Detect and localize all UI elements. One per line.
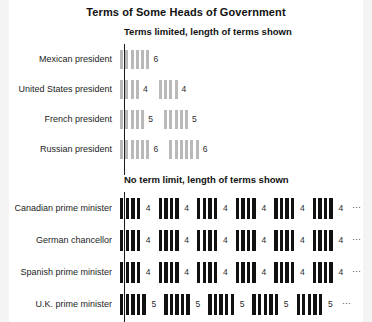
- year-bar: [136, 50, 139, 69]
- term-groups: 444444⋯: [120, 230, 362, 251]
- term-bars: [297, 294, 325, 315]
- year-bar: [291, 230, 294, 251]
- term-group: 5: [164, 294, 208, 315]
- row-label: Canadian prime minister: [0, 203, 118, 213]
- term-group: 4: [159, 80, 198, 99]
- year-bar: [141, 140, 144, 159]
- continuation-ellipsis: ⋯: [352, 203, 362, 213]
- term-bars: [313, 230, 335, 251]
- year-bar: [203, 262, 206, 283]
- chart-row: U.K. prime minister55555⋯: [0, 288, 372, 320]
- year-bar: [313, 198, 316, 219]
- term-group: 4: [159, 230, 198, 251]
- year-bar: [319, 294, 322, 315]
- term-group: 6: [120, 50, 169, 69]
- term-group: 4: [274, 198, 313, 219]
- term-bars: [197, 262, 219, 283]
- chart-row: Canadian prime minister444444⋯: [0, 192, 372, 224]
- year-bar: [308, 294, 311, 315]
- year-bar: [208, 294, 211, 315]
- term-bars: [120, 294, 148, 315]
- continuation-ellipsis: ⋯: [342, 299, 352, 309]
- term-length-label: 5: [196, 299, 201, 309]
- term-group: 4: [197, 198, 236, 219]
- year-bar: [120, 198, 123, 219]
- year-bar: [164, 262, 167, 283]
- year-bar: [125, 80, 128, 99]
- term-bars: [120, 230, 142, 251]
- term-length-label: 5: [328, 299, 333, 309]
- section-rows: Canadian prime minister444444⋯German cha…: [0, 192, 372, 320]
- term-length-label: 4: [261, 267, 266, 277]
- term-bars: [274, 230, 296, 251]
- year-bar: [264, 294, 267, 315]
- term-bars: [274, 262, 296, 283]
- year-bar: [285, 262, 288, 283]
- section-rows: Mexican president6United States presiden…: [0, 44, 372, 164]
- chart-row: Russian president66: [0, 134, 372, 164]
- term-bars: [120, 110, 144, 129]
- year-bar: [241, 262, 244, 283]
- year-bar: [164, 294, 167, 315]
- chart-title: Terms of Some Heads of Government: [0, 6, 372, 18]
- year-bar: [236, 230, 239, 251]
- year-bar: [131, 294, 134, 315]
- year-bar: [203, 230, 206, 251]
- row-label: German chancellor: [0, 235, 118, 245]
- year-bar: [131, 140, 134, 159]
- term-length-label: 4: [146, 267, 151, 277]
- year-bar: [329, 230, 332, 251]
- term-length-label: 6: [203, 144, 208, 154]
- year-bar: [175, 262, 178, 283]
- term-bars: [208, 294, 236, 315]
- year-bar: [142, 294, 145, 315]
- row-label: Spanish prime minister: [0, 267, 118, 277]
- chart-figure: Terms of Some Heads of Government Terms …: [0, 0, 372, 322]
- term-bars: [164, 294, 192, 315]
- year-bar: [208, 198, 211, 219]
- year-bar: [126, 198, 129, 219]
- continuation-ellipsis: ⋯: [352, 267, 362, 277]
- year-bar: [274, 262, 277, 283]
- term-length-label: 4: [184, 203, 189, 213]
- term-group: 4: [120, 80, 159, 99]
- year-bar: [169, 140, 172, 159]
- year-bar: [137, 230, 140, 251]
- year-bar: [131, 230, 134, 251]
- year-bar: [318, 262, 321, 283]
- year-bar: [269, 294, 272, 315]
- term-group: 5: [208, 294, 252, 315]
- year-bar: [175, 80, 178, 99]
- year-bar: [291, 198, 294, 219]
- year-bar: [329, 198, 332, 219]
- term-length-label: 4: [143, 84, 148, 94]
- year-bar: [247, 198, 250, 219]
- year-bar: [252, 230, 255, 251]
- year-bar: [313, 262, 316, 283]
- year-bar: [274, 198, 277, 219]
- term-length-label: 4: [339, 235, 344, 245]
- term-group: 4: [197, 230, 236, 251]
- term-bars: [252, 294, 280, 315]
- year-bar: [186, 294, 189, 315]
- year-bar: [324, 198, 327, 219]
- year-bar: [236, 262, 239, 283]
- year-bar: [175, 140, 178, 159]
- term-groups: 444444⋯: [120, 198, 362, 219]
- term-group: 4: [159, 198, 198, 219]
- year-bar: [285, 198, 288, 219]
- year-bar: [258, 294, 261, 315]
- year-bar: [164, 230, 167, 251]
- year-bar: [181, 294, 184, 315]
- term-length-label: 4: [261, 235, 266, 245]
- year-bar: [197, 198, 200, 219]
- term-group: 4: [197, 262, 236, 283]
- term-length-label: 4: [300, 235, 305, 245]
- year-bar: [313, 294, 316, 315]
- term-bars: [159, 230, 181, 251]
- year-bar: [141, 50, 144, 69]
- year-bar: [180, 110, 183, 129]
- term-length-label: 4: [300, 267, 305, 277]
- term-bars: [313, 198, 335, 219]
- section-heading: No term limit, length of terms shown: [124, 174, 289, 185]
